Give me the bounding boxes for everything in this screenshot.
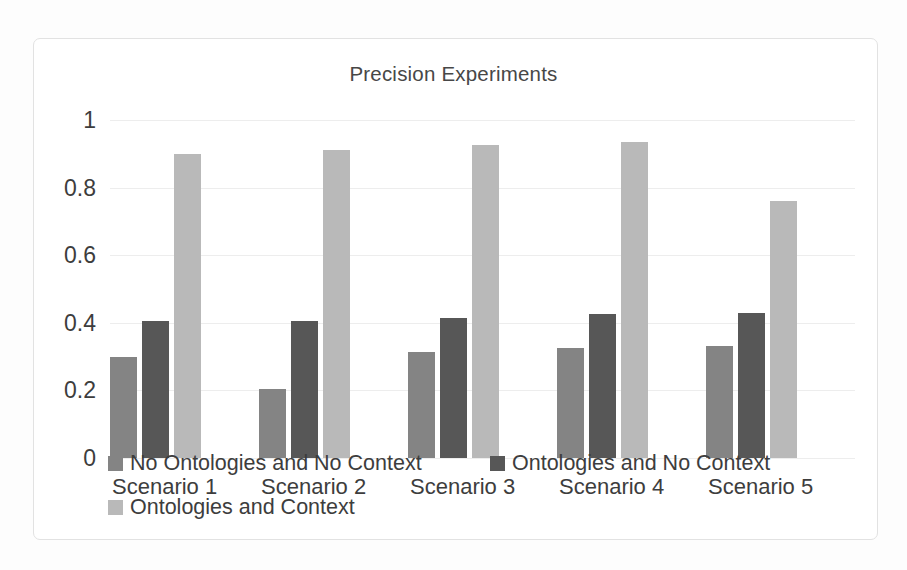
bar[interactable]: [589, 314, 616, 458]
bar-group: [110, 120, 259, 458]
y-axis-tick-label: 0.2: [64, 377, 96, 404]
category-axis-label: Scenario 4: [557, 474, 706, 504]
legend-swatch-icon: [108, 500, 123, 515]
bar[interactable]: [557, 348, 584, 458]
legend-item-label: No Ontologies and No Context: [130, 451, 422, 476]
category-axis-label: Scenario 3: [408, 474, 557, 504]
bar[interactable]: [110, 357, 137, 458]
legend-item-label: Ontologies and Context: [130, 495, 355, 520]
bar[interactable]: [621, 142, 648, 458]
legend-item-no-ontologies-and-no-context[interactable]: No Ontologies and No Context: [108, 451, 422, 476]
legend-swatch-icon: [490, 456, 505, 471]
bar[interactable]: [259, 389, 286, 458]
legend-item-ontologies-and-context[interactable]: Ontologies and Context: [108, 495, 355, 520]
bar-groups: [110, 120, 855, 458]
y-axis-tick-label: 1: [83, 107, 96, 134]
bar[interactable]: [323, 150, 350, 458]
y-axis-tick-label: 0.6: [64, 242, 96, 269]
legend-item-ontologies-and-no-context[interactable]: Ontologies and No Context: [490, 451, 770, 476]
bar[interactable]: [142, 321, 169, 458]
legend-swatch-icon: [108, 456, 123, 471]
bar[interactable]: [174, 154, 201, 458]
chart-title: Precision Experiments: [0, 62, 907, 86]
category-axis-label: Scenario 5: [706, 474, 855, 504]
bar[interactable]: [440, 318, 467, 458]
plot-area: 10.80.60.40.20: [110, 120, 855, 458]
y-axis-tick-label: 0: [83, 445, 96, 472]
y-axis-tick-label: 0.8: [64, 174, 96, 201]
chart-page: Precision Experiments 10.80.60.40.20 Sce…: [0, 0, 907, 570]
bar-group: [706, 120, 855, 458]
bar[interactable]: [291, 321, 318, 458]
bar-group: [408, 120, 557, 458]
bar[interactable]: [408, 352, 435, 458]
bar[interactable]: [738, 313, 765, 458]
bar[interactable]: [770, 201, 797, 458]
legend-item-label: Ontologies and No Context: [512, 451, 770, 476]
bar-group: [259, 120, 408, 458]
bar[interactable]: [472, 145, 499, 458]
y-axis-tick-label: 0.4: [64, 309, 96, 336]
bar[interactable]: [706, 346, 733, 458]
bar-group: [557, 120, 706, 458]
